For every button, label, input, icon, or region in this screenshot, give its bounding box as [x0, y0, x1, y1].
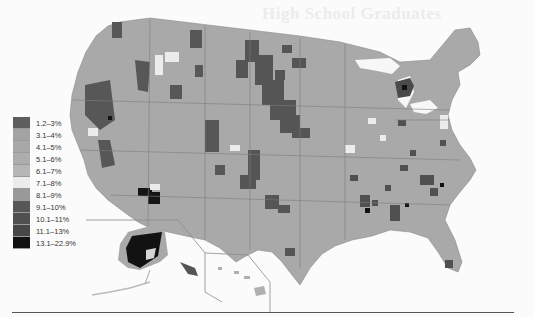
legend-swatch — [13, 141, 30, 153]
legend-item: 5.1–6% — [13, 153, 76, 165]
legend-label: 13.1–22.9% — [36, 239, 76, 248]
legend-label: 9.1–10% — [36, 203, 66, 212]
legend-swatch — [13, 129, 30, 141]
legend-swatch — [13, 117, 30, 129]
legend-label: 5.1–6% — [36, 155, 61, 164]
hawaii-inset — [218, 267, 266, 296]
legend-item: 3.1–4% — [13, 129, 76, 141]
legend-swatch — [13, 237, 30, 249]
legend-item: 4.1–5% — [13, 141, 76, 153]
legend-item: 8.1–9% — [13, 189, 76, 201]
legend-label: 7.1–8% — [36, 179, 61, 188]
legend-label: 3.1–4% — [36, 131, 61, 140]
legend-item: 10.1–11% — [13, 213, 76, 225]
legend-label: 11.1–13% — [36, 227, 69, 236]
legend-swatch — [13, 165, 30, 177]
legend-label: 10.1–11% — [36, 215, 69, 224]
legend-swatch — [13, 189, 30, 201]
legend-item: 1.2–3% — [13, 117, 76, 129]
legend-item: 9.1–10% — [13, 201, 76, 213]
legend-item: 11.1–13% — [13, 225, 76, 237]
legend-swatch — [13, 153, 30, 165]
legend-swatch — [13, 177, 30, 189]
legend-swatch — [13, 201, 30, 213]
legend-label: 1.2–3% — [36, 119, 61, 128]
legend-label: 8.1–9% — [36, 191, 61, 200]
legend-label: 6.1–7% — [36, 167, 61, 176]
legend-label: 4.1–5% — [36, 143, 61, 152]
us-choropleth-map — [0, 0, 534, 317]
legend-swatch — [13, 225, 30, 237]
legend-item: 7.1–8% — [13, 177, 76, 189]
legend-item: 13.1–22.9% — [13, 237, 76, 249]
legend-item: 6.1–7% — [13, 165, 76, 177]
alaska-inset — [92, 226, 198, 295]
bottom-divider — [12, 312, 514, 313]
map-legend: 1.2–3% 3.1–4% 4.1–5% 5.1–6% 6.1–7% 7.1–8… — [13, 117, 76, 249]
legend-swatch — [13, 213, 30, 225]
